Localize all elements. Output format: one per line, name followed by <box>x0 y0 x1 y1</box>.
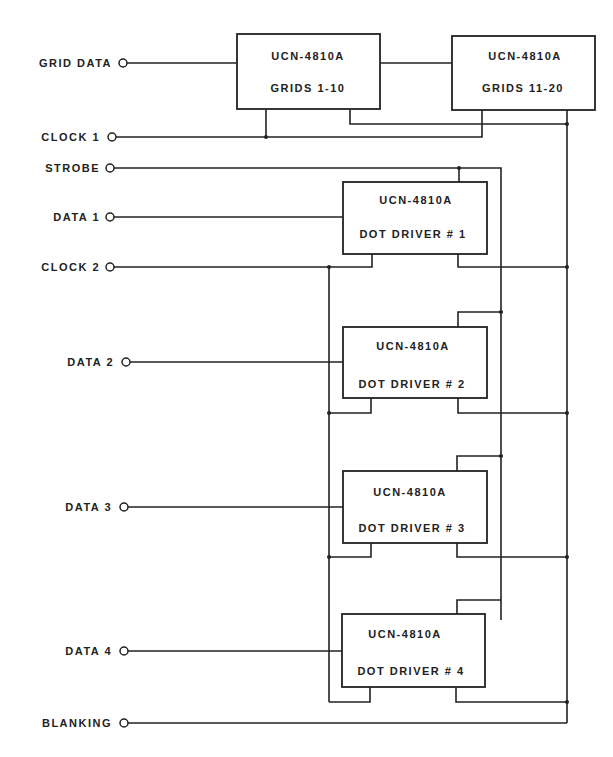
chip-part: UCN-4810A <box>271 50 344 62</box>
label-data3: DATA 3 <box>65 501 112 513</box>
chip-grids-11-20: UCN-4810A GRIDS 11-20 <box>452 36 595 110</box>
chip-part: UCN-4810A <box>373 486 446 498</box>
chip-function: DOT DRIVER # 3 <box>358 522 465 534</box>
terminal-icon <box>106 164 114 172</box>
wires <box>114 63 567 723</box>
input-data1: DATA 1 <box>53 211 114 223</box>
chip-function: DOT DRIVER # 1 <box>359 228 466 240</box>
label-strobe: STROBE <box>45 162 100 174</box>
terminal-icon <box>108 133 116 141</box>
label-data1: DATA 1 <box>53 211 100 223</box>
input-data3: DATA 3 <box>65 501 128 513</box>
chip-dot-driver-3: UCN-4810A DOT DRIVER # 3 <box>343 471 487 543</box>
terminal-icon <box>106 263 114 271</box>
chip-function: GRIDS 1-10 <box>271 82 346 94</box>
chip-part: UCN-4810A <box>368 628 441 640</box>
chip-part: UCN-4810A <box>488 50 561 62</box>
input-blanking: BLANKING <box>42 717 128 729</box>
input-strobe: STROBE <box>45 162 114 174</box>
terminal-icon <box>119 59 127 67</box>
terminal-icon <box>106 213 114 221</box>
terminal-icon <box>120 647 128 655</box>
label-data2: DATA 2 <box>67 356 114 368</box>
label-grid-data: GRID DATA <box>39 57 112 69</box>
input-clock1: CLOCK 1 <box>41 131 116 143</box>
input-data4: DATA 4 <box>65 645 128 657</box>
input-grid-data: GRID DATA <box>39 57 127 69</box>
input-data2: DATA 2 <box>67 356 130 368</box>
chip-function: GRIDS 11-20 <box>482 82 564 94</box>
label-blanking: BLANKING <box>42 717 112 729</box>
chip-function: DOT DRIVER # 4 <box>357 665 464 677</box>
label-clock1: CLOCK 1 <box>41 131 100 143</box>
chip-dot-driver-2: UCN-4810A DOT DRIVER # 2 <box>343 327 487 398</box>
terminal-icon <box>120 503 128 511</box>
label-clock2: CLOCK 2 <box>41 261 100 273</box>
chip-part: UCN-4810A <box>379 194 452 206</box>
terminal-icon <box>120 719 128 727</box>
chip-function: DOT DRIVER # 2 <box>358 378 465 390</box>
label-data4: DATA 4 <box>65 645 112 657</box>
chip-part: UCN-4810A <box>376 340 449 352</box>
chip-dot-driver-1: UCN-4810A DOT DRIVER # 1 <box>343 182 487 254</box>
input-clock2: CLOCK 2 <box>41 261 114 273</box>
chip-grids-1-10: UCN-4810A GRIDS 1-10 <box>237 34 380 109</box>
chip-dot-driver-4: UCN-4810A DOT DRIVER # 4 <box>342 614 485 687</box>
terminal-icon <box>122 358 130 366</box>
schematic-diagram: GRID DATA CLOCK 1 STROBE DATA 1 CLOCK 2 … <box>0 0 613 757</box>
